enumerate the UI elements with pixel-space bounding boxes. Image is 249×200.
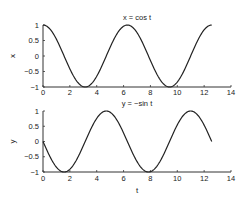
x-axis-label: t (136, 186, 139, 195)
y-axis-label: y (8, 140, 17, 144)
x-tick-label: 10 (173, 88, 181, 97)
x-tick-label: 2 (68, 174, 72, 183)
x-tick-label: 8 (148, 88, 152, 97)
x-tick-label: 14 (227, 88, 235, 97)
x-tick-label: 6 (121, 174, 125, 183)
x-tick-label: 14 (227, 174, 235, 183)
y-tick-label: −0.5 (24, 152, 39, 161)
plot-title: x = cos t (123, 13, 152, 22)
y-tick-label: −1 (30, 83, 39, 92)
x-tick-label: 4 (95, 88, 99, 97)
y-tick-label: 0 (35, 137, 39, 146)
y-tick-label: 0.5 (29, 122, 39, 131)
x-tick-label: 0 (41, 88, 45, 97)
x-tick-label: 8 (148, 174, 152, 183)
chart-canvas: 0246810121410.50−0.5−1x = cos tx02468101… (0, 0, 249, 200)
x-tick-label: 6 (121, 88, 125, 97)
x-tick-label: 0 (41, 174, 45, 183)
x-tick-label: 2 (68, 88, 72, 97)
x-tick-label: 4 (95, 174, 99, 183)
y-tick-label: −1 (30, 168, 39, 177)
y-tick-label: 0.5 (29, 36, 39, 45)
x-tick-label: 12 (200, 88, 208, 97)
y-axis-label: x (8, 54, 17, 58)
plot-title: y = −sin t (122, 99, 153, 108)
y-tick-label: −0.5 (24, 67, 39, 76)
series-line (43, 25, 212, 87)
y-tick-label: 1 (35, 107, 39, 116)
series-line (43, 111, 212, 172)
y-tick-label: 1 (35, 21, 39, 30)
x-tick-label: 12 (200, 174, 208, 183)
y-tick-label: 0 (35, 52, 39, 61)
x-tick-label: 10 (173, 174, 181, 183)
